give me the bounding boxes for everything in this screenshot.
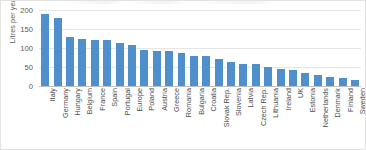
- bar[interactable]: [301, 73, 309, 86]
- x-label-slot: Poland: [138, 87, 150, 149]
- y-axis-tick-label: 200: [20, 6, 33, 15]
- x-label-slot: Italy: [39, 87, 51, 149]
- bar[interactable]: [252, 64, 260, 86]
- bar-series: [39, 10, 361, 86]
- bar-slot: [336, 10, 348, 86]
- bar[interactable]: [54, 18, 62, 86]
- x-label-slot: Lithuania: [262, 87, 274, 149]
- bar-slot: [138, 10, 150, 86]
- bar[interactable]: [66, 37, 74, 86]
- bar-slot: [324, 10, 336, 86]
- bar-slot: [250, 10, 262, 86]
- bar-slot: [101, 10, 113, 86]
- bar[interactable]: [326, 77, 334, 86]
- x-label-slot: Hungary: [64, 87, 76, 149]
- bar-slot: [39, 10, 51, 86]
- x-label-slot: Sweden: [349, 87, 361, 149]
- bar-slot: [163, 10, 175, 86]
- y-axis-tick-label: 100: [20, 44, 33, 53]
- bar-slot: [76, 10, 88, 86]
- x-label-slot: Austria: [151, 87, 163, 149]
- x-label-slot: Greece: [163, 87, 175, 149]
- bar-slot: [51, 10, 63, 86]
- bar-slot: [312, 10, 324, 86]
- x-label-slot: Czech Rep.: [250, 87, 262, 149]
- bar[interactable]: [190, 56, 198, 86]
- bar-slot: [237, 10, 249, 86]
- bar-slot: [225, 10, 237, 86]
- x-axis-tick-labels: ItalyGermanyHungaryBelgiumFranceSpainPor…: [39, 87, 361, 149]
- bar-slot: [349, 10, 361, 86]
- x-label-slot: Portugal: [113, 87, 125, 149]
- bar[interactable]: [128, 45, 136, 86]
- bar[interactable]: [140, 50, 148, 86]
- x-label-slot: Europe: [126, 87, 138, 149]
- bar-chart: Litres per year 050100150200 ItalyGerman…: [0, 0, 366, 150]
- bar[interactable]: [116, 43, 124, 86]
- bar[interactable]: [78, 39, 86, 87]
- x-axis-tick-label: Sweden: [358, 88, 366, 114]
- x-label-slot: Croatia: [200, 87, 212, 149]
- y-axis-tick-label: 0: [29, 82, 33, 91]
- bar[interactable]: [91, 40, 99, 86]
- bar[interactable]: [165, 51, 173, 86]
- bar-slot: [274, 10, 286, 86]
- bar[interactable]: [239, 64, 247, 86]
- x-label-slot: Bulgaria: [188, 87, 200, 149]
- plot-area: [39, 10, 361, 86]
- x-label-slot: Belgium: [76, 87, 88, 149]
- bar[interactable]: [202, 56, 210, 86]
- bar-slot: [299, 10, 311, 86]
- bar[interactable]: [264, 67, 272, 86]
- x-label-slot: Slovenia: [225, 87, 237, 149]
- bar-slot: [212, 10, 224, 86]
- bar-slot: [287, 10, 299, 86]
- bar-slot: [126, 10, 138, 86]
- x-label-slot: Ireland: [274, 87, 286, 149]
- bar[interactable]: [41, 14, 49, 86]
- cropped-title-artifact: [63, 1, 303, 4]
- bar-slot: [151, 10, 163, 86]
- bar-slot: [113, 10, 125, 86]
- y-axis-tick-label: 50: [25, 63, 33, 72]
- bar[interactable]: [103, 40, 111, 86]
- bar[interactable]: [351, 80, 359, 86]
- bar[interactable]: [339, 78, 347, 86]
- x-label-slot: UK: [287, 87, 299, 149]
- bar-slot: [89, 10, 101, 86]
- y-axis-tick-labels: 050100150200: [1, 10, 35, 86]
- x-label-slot: Denmark: [324, 87, 336, 149]
- bar[interactable]: [289, 70, 297, 86]
- bar[interactable]: [215, 59, 223, 86]
- bar-slot: [262, 10, 274, 86]
- bar-slot: [200, 10, 212, 86]
- bar[interactable]: [277, 69, 285, 86]
- x-label-slot: Romania: [175, 87, 187, 149]
- bar-slot: [175, 10, 187, 86]
- x-label-slot: Latvia: [237, 87, 249, 149]
- bar-slot: [188, 10, 200, 86]
- y-axis-tick-label: 150: [20, 25, 33, 34]
- bar[interactable]: [314, 75, 322, 86]
- bar-slot: [64, 10, 76, 86]
- x-label-slot: Finland: [336, 87, 348, 149]
- x-label-slot: Germany: [51, 87, 63, 149]
- x-label-slot: Spain: [101, 87, 113, 149]
- bar[interactable]: [178, 53, 186, 86]
- x-label-slot: France: [89, 87, 101, 149]
- x-label-slot: Netherlands: [312, 87, 324, 149]
- x-label-slot: Estonia: [299, 87, 311, 149]
- bar[interactable]: [153, 51, 161, 86]
- x-label-slot: Slovak Rep.: [212, 87, 224, 149]
- bar[interactable]: [227, 62, 235, 86]
